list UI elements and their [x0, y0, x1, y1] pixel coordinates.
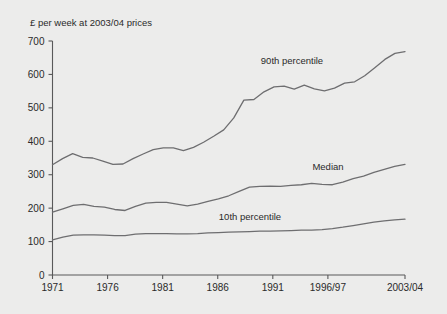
x-axis-ticks	[53, 275, 406, 279]
series-label-90th-percentile: 90th percentile	[261, 55, 323, 66]
y-tick-label: 600	[28, 69, 45, 80]
y-tick-label: 500	[28, 102, 45, 113]
y-tick-label: 100	[28, 236, 45, 247]
x-tick-label: 1981	[152, 282, 175, 293]
x-axis-tick-labels: 197119761981198619911996/972003/04	[41, 282, 423, 293]
series-label-10th-percentile: 10th percentile	[219, 211, 281, 222]
axes-group	[49, 41, 406, 279]
x-tick-label: 1976	[96, 282, 119, 293]
series-label-median: Median	[312, 161, 343, 172]
y-tick-label: 0	[39, 270, 45, 281]
line-chart: 0100200300400500600700 19711976198119861…	[0, 0, 447, 314]
chart-container: 0100200300400500600700 19711976198119861…	[0, 0, 447, 314]
x-tick-label: 1986	[207, 282, 230, 293]
y-tick-label: 300	[28, 169, 45, 180]
series-line-10th-percentile	[53, 219, 406, 240]
series-line-median	[53, 164, 406, 212]
y-axis-tick-labels: 0100200300400500600700	[28, 36, 45, 281]
x-tick-label: 1971	[41, 282, 64, 293]
y-tick-label: 700	[28, 36, 45, 47]
series-annotation-labels: 90th percentileMedian10th percentile	[219, 55, 344, 222]
series-line-90th-percentile	[53, 52, 406, 165]
chart-axis-title: £ per week at 2003/04 prices	[30, 17, 152, 28]
y-tick-label: 200	[28, 203, 45, 214]
x-tick-label: 2003/04	[387, 282, 424, 293]
x-tick-label: 1991	[262, 282, 285, 293]
x-tick-label: 1996/97	[310, 282, 347, 293]
y-tick-label: 400	[28, 136, 45, 147]
